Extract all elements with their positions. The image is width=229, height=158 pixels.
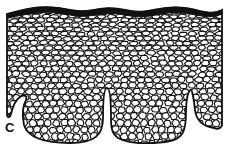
cell [61, 66, 69, 71]
cell [126, 106, 134, 113]
cell [148, 119, 155, 126]
cell [40, 126, 48, 133]
cell [46, 18, 55, 22]
cell [26, 140, 33, 147]
cell [183, 50, 191, 56]
cell [212, 76, 220, 82]
cell [147, 50, 156, 56]
cell [145, 133, 152, 140]
cell [186, 77, 194, 83]
cell [130, 41, 139, 46]
cell [174, 50, 182, 55]
cell [92, 18, 101, 23]
cell [148, 100, 156, 107]
cell [54, 45, 63, 50]
cell [197, 100, 205, 106]
cell [212, 120, 220, 127]
cell [124, 61, 132, 67]
cell [207, 46, 216, 51]
cell [69, 76, 77, 82]
cell [156, 89, 163, 94]
epidermis-diagram: C [0, 0, 229, 158]
cell [171, 31, 180, 36]
cell [176, 56, 185, 62]
cell [165, 88, 174, 95]
cell [172, 119, 180, 127]
cell [223, 133, 229, 140]
cell [95, 50, 103, 56]
cell [223, 66, 229, 71]
cell [125, 88, 133, 94]
cell [142, 61, 150, 67]
cell-mesh [0, 9, 229, 149]
cell [4, 94, 13, 100]
cell [200, 66, 208, 72]
cell [141, 119, 148, 126]
cell [84, 107, 92, 113]
cell [60, 77, 68, 83]
cell [161, 78, 170, 84]
cell [202, 141, 210, 148]
cell [193, 55, 201, 60]
cell [80, 126, 87, 133]
cell [188, 120, 195, 127]
cell [200, 18, 209, 22]
cell [21, 46, 28, 51]
cell [200, 132, 207, 140]
cell [203, 76, 211, 83]
cell [148, 18, 157, 23]
cell [49, 100, 57, 106]
cell [48, 40, 57, 45]
cell [50, 61, 58, 66]
epidermis-illustration [0, 0, 229, 158]
cell [140, 141, 147, 148]
cell [148, 89, 157, 95]
cell [15, 50, 23, 56]
cell [111, 77, 119, 83]
cell [188, 82, 196, 88]
cell [179, 84, 187, 89]
cell [116, 88, 124, 94]
cell [201, 94, 210, 100]
cell [102, 66, 111, 72]
cell [206, 36, 215, 41]
cell [98, 134, 105, 141]
cell [50, 113, 58, 120]
cell [217, 113, 225, 120]
cell [102, 141, 109, 148]
cell [214, 35, 222, 40]
cell [165, 72, 173, 77]
cell [95, 140, 102, 148]
cell [73, 18, 82, 22]
cell [37, 106, 44, 113]
cell [44, 120, 51, 127]
cell [40, 61, 48, 66]
cell [134, 94, 142, 100]
cell [217, 45, 225, 50]
cell [109, 106, 117, 113]
cell [51, 65, 60, 71]
cell [11, 36, 20, 40]
cell [57, 41, 66, 46]
cell [187, 113, 195, 120]
cell [83, 26, 91, 31]
cell [75, 113, 83, 120]
cell [202, 60, 210, 66]
cell [96, 83, 105, 88]
cell [88, 46, 97, 51]
cell [177, 76, 185, 82]
cell [116, 37, 125, 41]
cell [58, 50, 66, 55]
cell [57, 133, 65, 140]
cell [103, 41, 111, 46]
cell [200, 51, 208, 56]
cell [63, 82, 72, 88]
cell [191, 126, 199, 133]
cell [2, 140, 10, 148]
cell [27, 18, 36, 22]
cell [208, 106, 215, 113]
cell [63, 56, 71, 61]
cell [142, 31, 151, 35]
cell [116, 61, 124, 66]
cell [162, 112, 170, 119]
